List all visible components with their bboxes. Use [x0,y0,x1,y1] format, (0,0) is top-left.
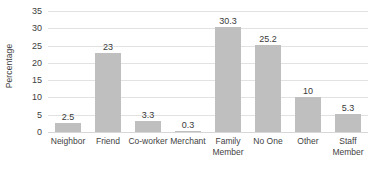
x-axis-label-line1: No One [253,136,282,146]
x-axis-label-line2: Member [328,147,368,158]
bar-value-label: 10 [303,86,313,96]
y-axis-tick-labels: 35302520151050 [18,0,45,140]
bar-slot: 0.3 [168,11,208,132]
x-axis-label-line2: Member [208,147,248,158]
y-axis-title: Percentage [0,0,18,132]
x-axis-label: No One [248,135,288,171]
x-axis-label-line1: Neighbor [51,136,86,146]
y-axis-tick-20: 20 [32,58,42,68]
x-axis-label-line1: Friend [96,136,120,146]
x-axis-label: StaffMember [328,135,368,171]
bar-slot: 10 [288,11,328,132]
bar-value-label: 5.3 [342,103,355,113]
y-axis-tick-10: 10 [32,92,42,102]
x-axis-label-line1: Merchant [170,136,205,146]
y-axis-title-text: Percentage [4,44,14,88]
bar[interactable] [255,45,281,132]
bars-layer: 2.5233.30.330.325.2105.3 [48,11,368,132]
bar-slot: 25.2 [248,11,288,132]
x-axis-label-line1: Other [297,136,318,146]
bar-chart: Percentage 35302520151050 2.5233.30.330.… [0,0,377,171]
x-axis-label-line1: Family [215,136,240,146]
x-axis-label: Merchant [168,135,208,171]
y-axis-tick-35: 35 [32,6,42,16]
y-axis-tick-25: 25 [32,41,42,51]
bar-value-label: 23 [103,42,113,52]
y-axis-tick-15: 15 [32,75,42,85]
bar-slot: 5.3 [328,11,368,132]
x-axis-label: Friend [88,135,128,171]
x-axis-label: Other [288,135,328,171]
bar-value-label: 30.3 [219,16,237,26]
y-axis-tick-30: 30 [32,23,42,33]
bar-slot: 2.5 [48,11,88,132]
bar[interactable] [55,123,81,132]
x-axis-label: Co-worker [128,135,168,171]
bar-slot: 23 [88,11,128,132]
y-axis-tick-0: 0 [37,127,42,137]
bar-value-label: 25.2 [259,34,277,44]
bar-value-label: 2.5 [62,112,75,122]
x-axis-label-line1: Staff [339,136,356,146]
y-axis-tick-5: 5 [37,110,42,120]
x-axis-label: Neighbor [48,135,88,171]
axis-baseline [48,132,368,133]
bar[interactable] [215,27,241,132]
bar-value-label: 0.3 [182,120,195,130]
bar[interactable] [295,97,321,132]
x-axis-label-line1: Co-worker [128,136,167,146]
x-axis-label: FamilyMember [208,135,248,171]
bar[interactable] [335,114,361,132]
bar-slot: 30.3 [208,11,248,132]
bar[interactable] [95,53,121,133]
bar[interactable] [175,131,201,132]
bar-value-label: 3.3 [142,110,155,120]
bar-slot: 3.3 [128,11,168,132]
x-axis-tick-labels: NeighborFriendCo-workerMerchantFamilyMem… [48,135,368,171]
plot-area: 2.5233.30.330.325.2105.3 [48,11,368,132]
bar[interactable] [135,121,161,132]
